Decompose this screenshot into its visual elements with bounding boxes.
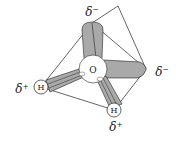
- lone-pair-lobe-right: [104, 60, 146, 78]
- oxygen-symbol: O: [89, 65, 96, 75]
- lone-pair-lobe-top: [82, 22, 103, 58]
- charge-label-right: δ⁻: [155, 65, 169, 79]
- charge-label-bottom-h: δ⁺: [109, 120, 123, 134]
- hydrogen-symbol: H: [111, 106, 118, 115]
- water-molecule-diagram: O H H δ⁻ δ⁻ δ⁺ δ⁺: [0, 0, 176, 153]
- hydrogen-symbol: H: [38, 83, 45, 92]
- charge-label-left-h: δ⁺: [15, 82, 29, 96]
- charge-label-top: δ⁻: [85, 5, 99, 19]
- hydrogen-atom-bottom: H: [107, 103, 121, 117]
- oxygen-atom: O: [79, 55, 107, 83]
- hydrogen-atom-left: H: [34, 80, 48, 94]
